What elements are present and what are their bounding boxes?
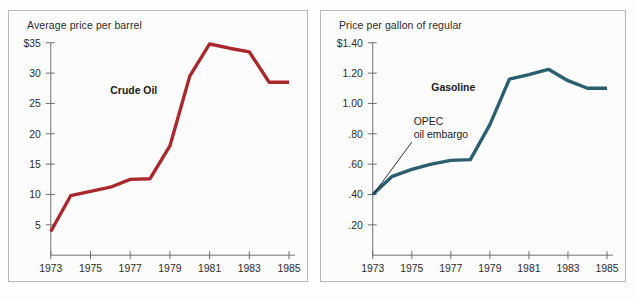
y-tick-label: 25 — [29, 98, 41, 109]
data-series-line — [51, 44, 289, 232]
y-tick-label: .60 — [348, 159, 363, 170]
y-tick-label: $35 — [23, 38, 41, 49]
x-tick-label: 1985 — [277, 263, 300, 274]
figure-root: Average price per barrel 51015202530$351… — [0, 0, 635, 299]
x-tick-label: 1973 — [39, 263, 62, 274]
x-tick-label: 1981 — [198, 263, 221, 274]
annotation-text: oil embargo — [414, 129, 469, 140]
x-tick-label: 1979 — [158, 263, 181, 274]
chart-panel-crude-oil: Average price per barrel 51015202530$351… — [8, 10, 308, 282]
y-tick-label: 20 — [29, 129, 41, 140]
x-tick-label: 1981 — [517, 263, 540, 274]
x-tick-label: 1979 — [478, 263, 501, 274]
opec-embargo-leader-line — [374, 142, 412, 194]
y-tick-label: 10 — [29, 189, 41, 200]
data-series-line — [373, 69, 607, 194]
x-tick-label: 1975 — [79, 263, 102, 274]
annotation-text: OPEC — [414, 116, 444, 127]
x-tick-label: 1985 — [595, 263, 618, 274]
crude-oil-line-chart: 51015202530$3519731975197719791981198319… — [9, 11, 307, 281]
gasoline-line-chart: .20.40.60.801.001.20$1.40197319751977197… — [321, 11, 625, 281]
chart-panel-gasoline: Price per gallon of regular .20.40.60.80… — [320, 10, 626, 282]
x-tick-label: 1983 — [238, 263, 261, 274]
x-tick-label: 1973 — [361, 263, 384, 274]
x-tick-label: 1983 — [556, 263, 579, 274]
y-tick-label: .80 — [348, 129, 363, 140]
y-tick-label: 30 — [29, 68, 41, 79]
series-label: Gasoline — [431, 82, 475, 93]
y-tick-label: 1.20 — [343, 68, 363, 79]
y-tick-label: 1.00 — [343, 98, 363, 109]
x-tick-label: 1975 — [400, 263, 423, 274]
y-tick-label: .40 — [348, 189, 363, 200]
y-tick-label: 5 — [35, 220, 41, 231]
x-tick-label: 1977 — [439, 263, 462, 274]
y-tick-label: 15 — [29, 159, 41, 170]
y-tick-label: .20 — [348, 220, 363, 231]
series-label: Crude Oil — [110, 85, 157, 96]
y-tick-label: $1.40 — [337, 38, 363, 49]
x-tick-label: 1977 — [119, 263, 142, 274]
